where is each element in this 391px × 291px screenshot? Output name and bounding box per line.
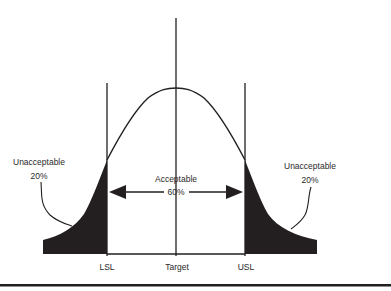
target-label: Target xyxy=(165,262,189,272)
left-unacceptable-percent: 20% xyxy=(30,171,47,181)
right-unacceptable-percent: 20% xyxy=(301,175,318,185)
spec-limit-diagram: Unacceptable 20% Acceptable 60% Unaccept… xyxy=(0,0,391,291)
bottom-rule xyxy=(0,284,391,287)
acceptable-percent: 60% xyxy=(167,187,184,197)
right-leader-line xyxy=(291,187,311,229)
arrow-right-icon xyxy=(226,185,243,199)
usl-label: USL xyxy=(238,262,255,272)
left-unacceptable-title: Unacceptable xyxy=(13,157,65,167)
acceptable-title: Acceptable xyxy=(155,174,197,184)
right-unacceptable-title: Unacceptable xyxy=(284,161,336,171)
arrow-left-icon xyxy=(109,185,126,199)
lsl-label: LSL xyxy=(99,262,114,272)
left-tail-shaded-region xyxy=(43,160,107,254)
left-leader-line xyxy=(41,182,72,226)
